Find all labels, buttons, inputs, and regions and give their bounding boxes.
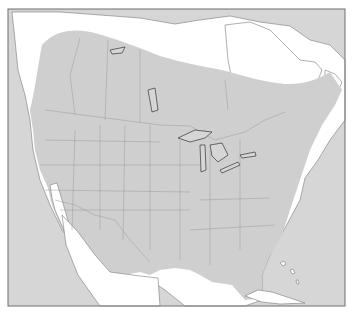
range-map	[0, 0, 357, 315]
lake-michigan	[200, 145, 206, 172]
